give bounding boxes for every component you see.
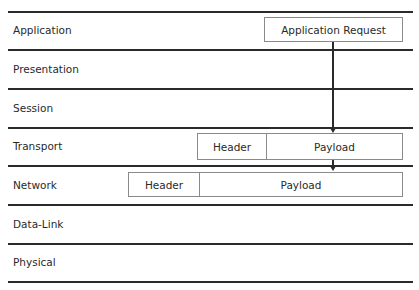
layer-label-data-link: Data-Link bbox=[13, 217, 63, 231]
arrow-shaft bbox=[332, 42, 334, 129]
layer-divider bbox=[8, 11, 413, 13]
application-request-label: Application Request bbox=[281, 24, 386, 36]
network-header-cell: Header bbox=[129, 173, 199, 196]
layer-divider bbox=[8, 49, 413, 51]
layer-label-application: Application bbox=[13, 23, 72, 37]
transport-segment-box: Header Payload bbox=[197, 133, 403, 160]
transport-header-cell: Header bbox=[198, 134, 266, 159]
network-payload-label: Payload bbox=[281, 179, 322, 191]
layer-label-session: Session bbox=[13, 101, 53, 115]
layer-divider bbox=[8, 165, 413, 167]
layer-divider bbox=[8, 127, 413, 129]
network-payload-cell: Payload bbox=[199, 173, 402, 196]
layer-label-physical: Physical bbox=[13, 255, 56, 269]
layer-label-transport: Transport bbox=[13, 139, 62, 153]
network-packet-box: Header Payload bbox=[128, 172, 403, 197]
layer-label-network: Network bbox=[13, 178, 57, 192]
layer-divider bbox=[8, 243, 413, 245]
layer-label-presentation: Presentation bbox=[13, 62, 79, 76]
layer-divider bbox=[8, 88, 413, 90]
network-header-label: Header bbox=[145, 179, 183, 191]
application-request-box: Application Request bbox=[264, 17, 403, 42]
layer-divider bbox=[8, 204, 413, 206]
transport-payload-cell: Payload bbox=[266, 134, 402, 159]
layer-divider bbox=[8, 281, 413, 283]
arrow-down-icon bbox=[330, 166, 336, 171]
transport-payload-label: Payload bbox=[314, 141, 355, 153]
transport-header-label: Header bbox=[213, 141, 251, 153]
